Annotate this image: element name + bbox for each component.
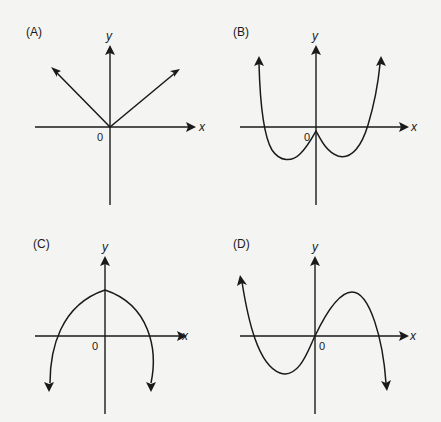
y-axis-label: y [105, 29, 113, 43]
function-graphs-figure: (A) x y 0 (B) x y 0 (C) x y [0, 0, 441, 422]
x-axis-label: x [181, 329, 189, 343]
graph-a: (A) x y 0 [26, 25, 206, 205]
panel-label-d: (D) [233, 237, 250, 251]
y-axis-label: y [101, 240, 109, 254]
graph-c: (C) x y 0 [33, 237, 189, 414]
y-axis-label: y [311, 29, 319, 43]
x-axis-label: x [409, 329, 417, 343]
panel-label-b: (B) [233, 25, 249, 39]
cubic-curve [242, 282, 386, 383]
curve-arrow-icon [44, 382, 54, 392]
graph-b: (B) x y 0 [233, 25, 418, 205]
origin-label: 0 [92, 340, 98, 352]
w-shaped-curve [259, 64, 380, 160]
origin-label: 0 [319, 340, 325, 352]
absolute-value-curve [56, 72, 175, 127]
curve-arrow-icon [376, 56, 386, 66]
origin-label: 0 [97, 131, 103, 143]
panel-label-c: (C) [33, 237, 50, 251]
curve-arrow-icon [146, 382, 156, 392]
graph-d: (D) x y 0 [233, 237, 417, 414]
x-axis-label: x [410, 120, 418, 134]
panel-label-a: (A) [26, 25, 42, 39]
y-axis-label: y [311, 240, 319, 254]
x-axis-label: x [198, 120, 206, 134]
